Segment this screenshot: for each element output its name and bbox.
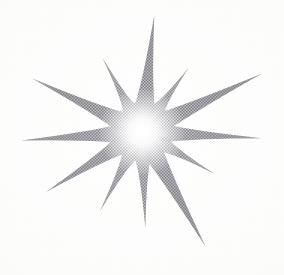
starburst-svg — [0, 0, 284, 275]
image-canvas: Twelve-point halftone starburst — [0, 0, 284, 275]
starburst-figure — [0, 0, 284, 275]
starburst-core-hotspot — [135, 125, 149, 139]
